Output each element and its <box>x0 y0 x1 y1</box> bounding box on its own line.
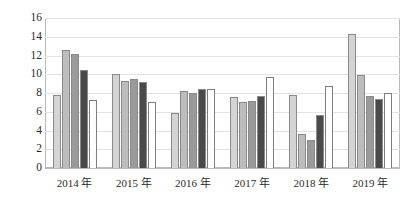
y-tick-label: 4 <box>12 125 42 137</box>
gridline-0 <box>45 168 400 169</box>
bar <box>307 140 315 168</box>
bar-chart: 0246810121416 2014 年2015 年2016 年2017 年20… <box>0 0 408 203</box>
bar <box>53 95 61 168</box>
bar <box>171 113 179 168</box>
y-tick-label: 16 <box>12 12 42 24</box>
bar <box>80 70 88 168</box>
y-tick-label: 14 <box>12 31 42 43</box>
x-tick-label: 2016 年 <box>175 174 211 190</box>
bar <box>289 95 297 168</box>
bar <box>239 102 247 168</box>
bar <box>180 91 188 168</box>
x-tick-label: 2019 年 <box>353 174 389 190</box>
y-tick-label: 10 <box>12 69 42 81</box>
bar <box>366 96 374 168</box>
bar-group <box>282 18 341 168</box>
bar <box>189 93 197 168</box>
bar <box>384 93 392 168</box>
y-tick-label: 8 <box>12 87 42 99</box>
bar <box>248 101 256 169</box>
bar <box>325 86 333 168</box>
bar-group <box>104 18 163 168</box>
bar <box>121 81 129 168</box>
bar <box>198 89 206 168</box>
bars-layer <box>45 18 400 168</box>
bar <box>266 77 274 168</box>
y-tick-label: 0 <box>12 162 42 174</box>
y-tick-label: 2 <box>12 144 42 156</box>
bar-group <box>45 18 104 168</box>
bar <box>207 89 215 168</box>
x-tick-label: 2017 年 <box>234 174 270 190</box>
bar <box>148 102 156 168</box>
bar <box>130 79 138 168</box>
bar-group <box>341 18 400 168</box>
bar <box>89 100 97 168</box>
bar <box>257 96 265 168</box>
bar <box>112 74 120 168</box>
bar <box>357 75 365 168</box>
x-tick-label: 2014 年 <box>57 174 93 190</box>
x-tick-label: 2015 年 <box>116 174 152 190</box>
bar <box>348 34 356 168</box>
bar <box>316 115 324 168</box>
y-tick-label: 12 <box>12 50 42 62</box>
bar <box>298 134 306 168</box>
bar <box>375 99 383 168</box>
x-tick-label: 2018 年 <box>293 174 329 190</box>
y-tick-label: 6 <box>12 106 42 118</box>
bar <box>230 97 238 168</box>
bar-group <box>163 18 222 168</box>
bar <box>139 82 147 168</box>
bar-group <box>223 18 282 168</box>
bar <box>71 54 79 168</box>
bar <box>62 50 70 168</box>
